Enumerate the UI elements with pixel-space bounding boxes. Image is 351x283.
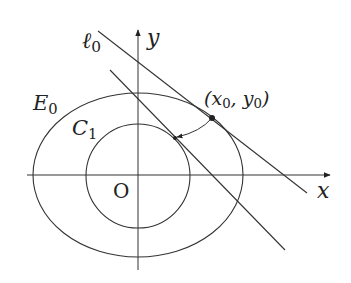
point-x0-y0: [209, 115, 215, 121]
label-x-axis: x: [317, 180, 329, 202]
label-e0: E0: [33, 93, 58, 116]
diagram-canvas: [0, 0, 351, 283]
label-origin: O: [113, 181, 129, 201]
label-point: (x0, y0): [204, 89, 269, 111]
label-c1: C1: [72, 118, 97, 141]
line-l0: [98, 31, 307, 193]
label-y-axis: y: [147, 27, 159, 49]
label-l0: ℓ0: [82, 30, 101, 55]
tangent-point: [173, 136, 177, 140]
diagram: ℓ0 y E0 C1 (x0, y0) O x: [0, 0, 351, 283]
projection-arrow: [177, 118, 212, 137]
